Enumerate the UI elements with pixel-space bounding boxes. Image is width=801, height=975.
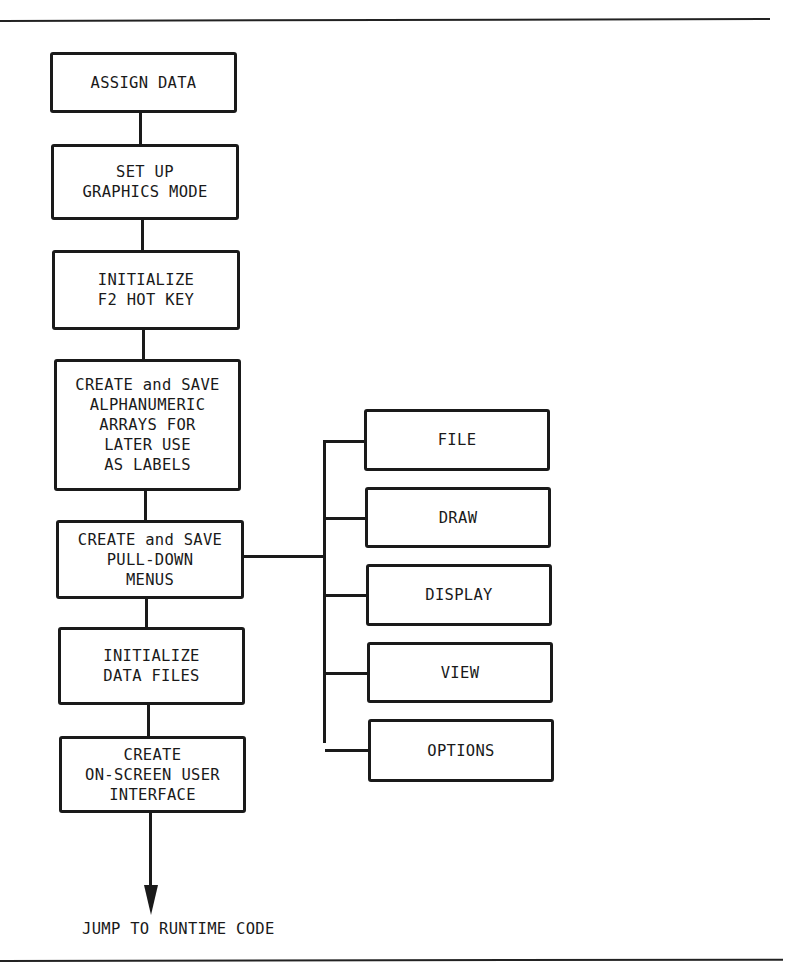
connector <box>145 598 148 629</box>
box-create-save-alphanumeric-arrays: CREATE and SAVE ALPHANUMERIC ARRAYS FOR … <box>54 359 241 491</box>
box-create-save-pull-down-menus: CREATE and SAVE PULL-DOWN MENUS <box>56 520 244 599</box>
menu-box-options: OPTIONS <box>368 719 554 782</box>
connector <box>139 112 142 146</box>
menu-bus-line <box>323 440 326 743</box>
box-label: ASSIGN DATA <box>91 73 197 93</box>
menu-stub <box>323 517 366 520</box>
menu-stub <box>325 749 369 752</box>
menu-label: DISPLAY <box>425 585 492 605</box>
box-label: CREATE and SAVE <box>75 375 219 395</box>
box-label: INTERFACE <box>109 785 196 805</box>
box-label: ON-SCREEN USER <box>85 765 220 785</box>
box-set-up-graphics-mode: SET UP GRAPHICS MODE <box>51 144 239 220</box>
menu-stub <box>324 594 367 597</box>
box-assign-data: ASSIGN DATA <box>50 52 237 113</box>
menu-stub <box>323 440 366 443</box>
box-label: ARRAYS FOR <box>99 415 195 435</box>
arrow-down-icon <box>144 885 158 915</box>
menu-label: FILE <box>438 430 477 450</box>
box-initialize-f2-hot-key: INITIALIZE F2 HOT KEY <box>52 250 240 330</box>
box-label: INITIALIZE <box>98 270 194 290</box>
box-label: ALPHANUMERIC <box>90 395 206 415</box>
bottom-rule <box>0 959 783 962</box>
terminal-label: JUMP TO RUNTIME CODE <box>82 920 275 938</box>
arrow-shaft <box>149 812 152 892</box>
box-label: INITIALIZE <box>103 646 199 666</box>
menu-box-display: DISPLAY <box>366 564 552 626</box>
connector <box>141 219 144 252</box>
top-rule <box>0 18 770 22</box>
box-label: MENUS <box>126 570 174 590</box>
menu-label: OPTIONS <box>427 741 494 761</box>
box-create-on-screen-user-interface: CREATE ON-SCREEN USER INTERFACE <box>59 736 246 813</box>
box-label: CREATE <box>124 745 182 765</box>
branch-connector <box>243 555 326 558</box>
box-label: CREATE and SAVE <box>78 530 222 550</box>
box-label: PULL-DOWN <box>107 550 194 570</box>
box-label: GRAPHICS MODE <box>82 182 207 202</box>
menu-box-view: VIEW <box>367 642 553 703</box>
box-label: LATER USE <box>104 435 191 455</box>
menu-label: VIEW <box>441 663 480 683</box>
menu-box-file: FILE <box>364 409 550 471</box>
connector <box>147 704 150 738</box>
box-initialize-data-files: INITIALIZE DATA FILES <box>58 627 245 705</box>
box-label: AS LABELS <box>104 455 191 475</box>
menu-box-draw: DRAW <box>365 487 551 548</box>
box-label: SET UP <box>116 162 174 182</box>
connector <box>144 490 147 522</box>
box-label: F2 HOT KEY <box>98 290 194 310</box>
menu-label: DRAW <box>439 508 478 528</box>
box-label: DATA FILES <box>103 666 199 686</box>
connector <box>142 329 145 361</box>
menu-stub <box>325 672 368 675</box>
